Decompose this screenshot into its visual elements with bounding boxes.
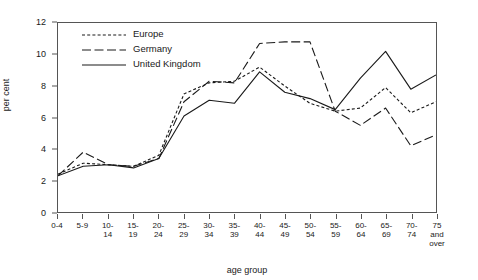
x-tick-mark [361,214,362,219]
legend-label: United Kingdom [133,56,201,71]
y-tick-label: 4 [41,145,46,154]
legend-item: Germany [82,41,201,56]
x-tick-mark [133,214,134,219]
chart-figure: 024681012 per cent 0-45-910- 1415- 1920-… [0,0,478,280]
x-tick-mark [209,214,210,219]
x-tick-mark [386,214,387,219]
legend-item: Europe [82,26,201,41]
y-tick-label: 6 [41,113,46,122]
x-tick-mark [184,214,185,219]
chart-legend: EuropeGermanyUnited Kingdom [82,26,201,71]
legend-item: United Kingdom [82,56,201,71]
y-tick-label: 12 [36,18,46,27]
x-tick-label: 75 and over [420,221,454,248]
x-tick-mark [234,214,235,219]
x-tick-mark [285,214,286,219]
legend-label: Europe [133,26,164,41]
y-tick-label: 8 [41,81,46,90]
y-tick-label: 10 [36,49,46,58]
legend-label: Germany [133,41,172,56]
x-tick-mark [158,214,159,219]
y-tick-label: 2 [41,177,46,186]
x-axis-title: age group [227,265,268,275]
y-tick-label: 0 [41,209,46,218]
x-tick-mark [437,214,438,219]
x-axis: 0-45-910- 1415- 1920- 2425- 2930- 3435- … [57,214,437,260]
series-line [58,67,436,174]
x-tick-mark [108,214,109,219]
x-tick-mark [336,214,337,219]
x-tick-mark [82,214,83,219]
x-tick-mark [260,214,261,219]
x-tick-mark [310,214,311,219]
x-tick-mark [412,214,413,219]
legend-line-swatch [82,29,126,39]
legend-line-swatch [82,59,126,69]
x-tick-mark [57,214,58,219]
legend-line-swatch [82,44,126,54]
y-axis-title: per cent [1,79,11,112]
